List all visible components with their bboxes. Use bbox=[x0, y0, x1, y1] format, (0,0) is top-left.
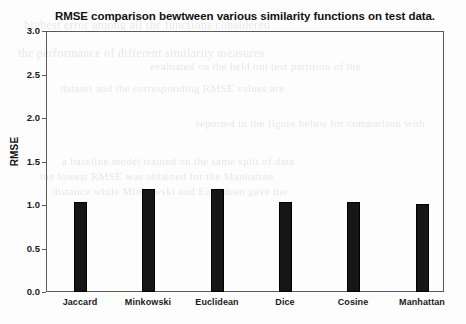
y-tick-label-6: 3.0 bbox=[0, 26, 40, 36]
bar-minkowski[interactable] bbox=[142, 189, 155, 292]
chart-title: RMSE comparison bewtween various similar… bbox=[46, 10, 444, 23]
y-tick-label-1: 0.5 bbox=[0, 244, 40, 254]
bar-cosine[interactable] bbox=[347, 202, 360, 292]
y-tick-mark-0 bbox=[42, 292, 46, 293]
x-tick-label-jaccard: Jaccard bbox=[63, 297, 98, 308]
y-tick-label-0: 0.0 bbox=[0, 287, 40, 297]
x-tick-label-dice: Dice bbox=[275, 297, 294, 308]
bar-euclidean[interactable] bbox=[211, 189, 224, 292]
x-tick-label-manhattan: Manhattan bbox=[399, 297, 445, 308]
x-tick-label-cosine: Cosine bbox=[338, 297, 369, 308]
y-tick-label-5: 2.5 bbox=[0, 70, 40, 80]
y-tick-label-3: 1.5 bbox=[0, 157, 40, 167]
plot-area bbox=[46, 31, 444, 292]
chart-figure: the performance of different similarity … bbox=[0, 0, 466, 324]
x-tick-label-minkowski: Minkowski bbox=[125, 297, 171, 308]
bar-dice[interactable] bbox=[279, 202, 292, 293]
y-axis-label: RMSE bbox=[9, 122, 20, 182]
y-tick-label-4: 2.0 bbox=[0, 113, 40, 123]
bar-jaccard[interactable] bbox=[74, 202, 87, 292]
bar-manhattan[interactable] bbox=[416, 204, 429, 292]
x-tick-label-euclidean: Euclidean bbox=[195, 297, 238, 308]
y-tick-label-2: 1.0 bbox=[0, 200, 40, 210]
